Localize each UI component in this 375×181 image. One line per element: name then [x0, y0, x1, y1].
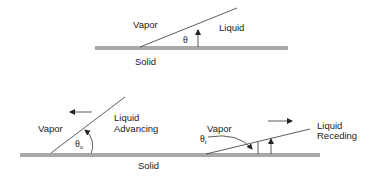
- top-contact-angle-diagram: [95, 8, 288, 50]
- theta-symbol: θ: [183, 34, 188, 45]
- angle-subscript: a: [80, 143, 83, 151]
- receding-angle-leader-curve: [208, 136, 252, 149]
- bottom-solid-surface: [20, 153, 320, 157]
- top-contact-angle-label: θ: [183, 35, 188, 45]
- advancing-angle-label: θa: [75, 139, 83, 152]
- bottom-solid-label: Solid: [138, 161, 159, 171]
- advancing-vapor-label: Vapor: [38, 124, 63, 134]
- top-liquid-label: Liquid: [219, 23, 244, 33]
- wetting-diagram-svg: [0, 0, 375, 181]
- receding-vapor-label: Vapor: [207, 124, 232, 134]
- top-solid-surface: [95, 46, 288, 50]
- advancing-liquid-label-line2: Advancing: [114, 124, 158, 134]
- angle-subscript: r: [205, 138, 207, 146]
- advancing-angle-arc: [85, 130, 93, 154]
- receding-angle-label: θr: [200, 134, 207, 147]
- receding-liquid-label-line2: Receding: [317, 131, 357, 141]
- top-vapor-label: Vapor: [133, 20, 158, 30]
- top-solid-label: Solid: [135, 57, 156, 67]
- advancing-liquid-label-line1: Liquid: [114, 113, 139, 123]
